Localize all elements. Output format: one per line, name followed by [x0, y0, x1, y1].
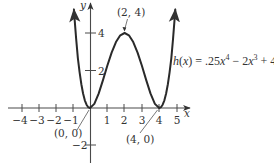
annotation-label: (2, 4): [117, 6, 145, 18]
x-tick-label: 4: [156, 114, 163, 126]
x-tick-label: 5: [174, 114, 181, 126]
x-tick-label: −3: [29, 114, 44, 126]
y-tick-label: 4: [98, 27, 105, 39]
x-axis-label: x: [184, 107, 190, 119]
x-tick-label: −4: [12, 114, 28, 126]
leader-arrow-icon: [123, 27, 127, 32]
x-tick-label: 3: [139, 114, 146, 126]
x-tick-labels: −4 −3 −2 −1 1 2 3 4 5: [12, 114, 180, 126]
annotation-label: (4, 0): [126, 133, 154, 145]
y-tick-label: −2: [72, 139, 87, 151]
leader-line: [77, 110, 89, 130]
function-graph: x y −4 −3 −2 −1 1 2 3 4 5 4 2 −2 (2, 4): [0, 0, 274, 163]
y-axis-label: y: [79, 0, 87, 11]
annotation-max: (2, 4): [117, 6, 145, 32]
x-tick-label: −2: [46, 114, 61, 126]
x-tick-label: 2: [121, 114, 128, 126]
x-tick-label: −1: [63, 114, 78, 126]
function-label: h(x) = .25x4 − 2x3 + 4x2: [173, 53, 274, 68]
x-tick-label: 1: [104, 114, 111, 126]
function-curve: [74, 10, 175, 108]
